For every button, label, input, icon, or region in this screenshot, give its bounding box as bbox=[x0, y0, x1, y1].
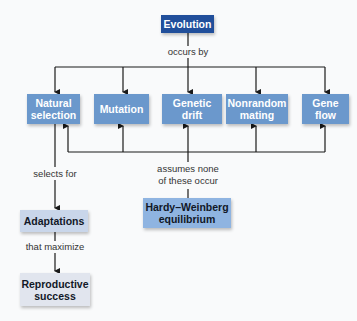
node-adaptations-label: Adaptations bbox=[24, 215, 85, 227]
node-nonrandom-mating-label: Nonrandom mating bbox=[228, 97, 287, 121]
node-mutation: Mutation bbox=[94, 94, 149, 124]
node-hardy-weinberg-label: Hardy–Weinberg equilibrium bbox=[145, 201, 228, 225]
node-mutation-label: Mutation bbox=[100, 103, 144, 115]
node-evolution-label: Evolution bbox=[164, 18, 212, 30]
edge-label-selects-for: selects for bbox=[25, 168, 85, 180]
node-gene-flow-label: Gene flow bbox=[312, 97, 338, 121]
edge-label-assumes-none: assumes none of these occur bbox=[148, 163, 228, 187]
node-genetic-drift-label: Genetic drift bbox=[173, 97, 212, 121]
node-natural-selection-label: Natural selection bbox=[31, 97, 77, 121]
edge-label-that-maximize: that maximize bbox=[18, 241, 92, 253]
node-adaptations: Adaptations bbox=[20, 210, 88, 232]
node-nonrandom-mating: Nonrandom mating bbox=[226, 94, 288, 124]
node-gene-flow: Gene flow bbox=[302, 94, 349, 124]
edge-label-occurs-by: occurs by bbox=[160, 46, 216, 58]
node-natural-selection: Natural selection bbox=[27, 94, 80, 124]
node-evolution: Evolution bbox=[161, 15, 214, 33]
node-reproductive-success: Reproductive success bbox=[20, 273, 90, 306]
node-reproductive-success-label: Reproductive success bbox=[21, 278, 88, 302]
node-hardy-weinberg: Hardy–Weinberg equilibrium bbox=[143, 198, 231, 228]
node-genetic-drift: Genetic drift bbox=[162, 94, 222, 124]
